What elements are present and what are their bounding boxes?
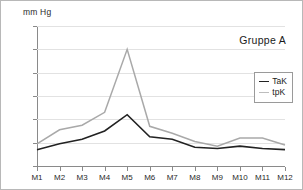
x-tick-mark	[150, 167, 151, 171]
legend-swatch-tak	[259, 81, 269, 82]
series-line-tpk	[37, 49, 285, 146]
y-tick-mark	[33, 96, 37, 97]
x-tick-label: M8	[189, 173, 200, 182]
y-tick-mark	[33, 143, 37, 144]
x-tick-mark	[285, 167, 286, 171]
chart-container: mm Hg Gruppe A 020406080100120 M1M2M3M4M…	[0, 0, 303, 190]
x-tick-label: M1	[31, 173, 42, 182]
x-tick-mark	[195, 167, 196, 171]
y-tick-mark	[33, 119, 37, 120]
x-tick-label: M2	[54, 173, 65, 182]
series-line-tak	[37, 115, 285, 150]
legend-label-tak: TaK	[272, 76, 287, 87]
x-tick-label: M4	[99, 173, 110, 182]
x-tick-mark	[37, 167, 38, 171]
legend-label-tpk: tpK	[272, 87, 285, 98]
legend-item-tak: TaK	[259, 76, 287, 87]
x-tick-label: M12	[277, 173, 293, 182]
x-tick-label: M11	[255, 173, 270, 182]
legend: TaK tpK	[254, 72, 293, 103]
y-tick-mark	[33, 73, 37, 74]
x-tick-label: M7	[167, 173, 178, 182]
y-tick-mark	[33, 26, 37, 27]
x-tick-mark	[240, 167, 241, 171]
legend-swatch-tpk	[259, 92, 269, 93]
x-tick-label: M10	[232, 173, 248, 182]
x-tick-label: M5	[122, 173, 133, 182]
x-tick-label: M6	[144, 173, 155, 182]
y-tick-mark	[33, 49, 37, 50]
x-tick-mark	[127, 167, 128, 171]
x-tick-mark	[172, 167, 173, 171]
x-tick-label: M9	[212, 173, 223, 182]
series-lines	[37, 26, 285, 166]
gridline	[37, 166, 285, 167]
x-tick-mark	[82, 167, 83, 171]
y-axis-unit-label: mm Hg	[23, 7, 51, 17]
x-tick-label: M3	[77, 173, 88, 182]
plot-area	[37, 26, 285, 166]
x-tick-mark	[217, 167, 218, 171]
x-tick-mark	[262, 167, 263, 171]
x-tick-mark	[105, 167, 106, 171]
legend-item-tpk: tpK	[259, 87, 287, 98]
x-tick-mark	[60, 167, 61, 171]
